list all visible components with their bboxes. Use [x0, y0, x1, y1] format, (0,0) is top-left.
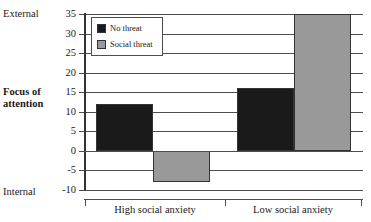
category-axis-tick — [361, 199, 362, 206]
legend-item-no-threat: No threat — [97, 22, 158, 35]
grouped-bar-chart: External Focus of attention Internal 353… — [0, 0, 371, 222]
legend-label-social-threat: Social threat — [110, 40, 153, 49]
bar — [96, 104, 153, 151]
y-axis-tick — [79, 112, 84, 113]
zero-line — [84, 151, 363, 152]
y-axis-tick — [79, 131, 84, 132]
axis-pole-label-external: External — [3, 8, 39, 19]
y-axis-tick — [79, 190, 84, 191]
y-axis-tick-label: 0 — [50, 146, 76, 156]
y-axis-tick — [79, 92, 84, 93]
y-axis-tick-label: -10 — [50, 185, 76, 195]
legend-item-social-threat: Social threat — [97, 38, 158, 51]
y-axis-tick-label: 20 — [50, 68, 76, 78]
y-axis-tick — [79, 34, 84, 35]
category-label: High social anxiety — [85, 204, 225, 216]
y-axis-tick-label: 10 — [50, 107, 76, 117]
y-axis-title-line-1: Focus of — [3, 86, 43, 98]
bar — [237, 88, 294, 151]
y-axis-tick-label: 30 — [50, 29, 76, 39]
y-axis-tick — [79, 73, 84, 74]
y-axis-tick — [79, 14, 84, 15]
y-axis-tick-label: 25 — [50, 48, 76, 58]
y-axis-title: Focus of attention — [3, 86, 43, 109]
legend: No threat Social threat — [91, 17, 163, 56]
y-axis-tick — [79, 53, 84, 54]
y-axis-tick-label: 35 — [50, 9, 76, 19]
y-axis-title-line-2: attention — [3, 98, 43, 110]
legend-swatch-no-threat — [97, 24, 106, 33]
bar — [153, 151, 210, 182]
y-axis-tick — [79, 170, 84, 171]
gridline — [84, 170, 363, 171]
y-axis-tick-label: -5 — [50, 165, 76, 175]
legend-label-no-threat: No threat — [110, 24, 142, 33]
axis-pole-label-internal: Internal — [3, 186, 36, 197]
legend-swatch-social-threat — [97, 40, 106, 49]
category-label: Low social anxiety — [225, 204, 361, 216]
bar — [294, 14, 351, 151]
category-axis-line — [84, 199, 363, 200]
y-axis-tick-label: 15 — [50, 87, 76, 97]
y-axis-tick-label: 5 — [50, 126, 76, 136]
gridline — [84, 190, 363, 191]
y-axis-line — [84, 13, 86, 191]
